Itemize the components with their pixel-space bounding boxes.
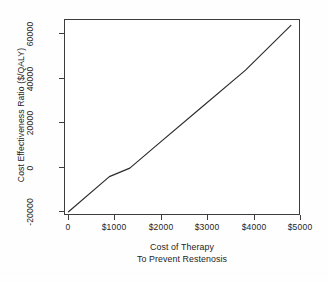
y-tick-label: 20000 (25, 101, 35, 145)
x-tick-mark (300, 215, 301, 220)
y-tick-mark (59, 33, 64, 34)
y-tick-mark (59, 78, 64, 79)
x-tick-label: 0 (45, 222, 91, 232)
x-tick-mark (254, 215, 255, 220)
x-tick-label: $2000 (138, 222, 184, 232)
x-axis-title-line2: To Prevent Restenosis (64, 254, 300, 266)
x-tick-mark (207, 215, 208, 220)
y-tick-label: 60000 (25, 12, 35, 56)
y-tick-label: 0 (25, 146, 35, 190)
x-tick-label: $1000 (91, 222, 137, 232)
x-tick-label: $5000 (277, 222, 323, 232)
x-tick-label: $3000 (184, 222, 230, 232)
y-tick-label: 40000 (25, 57, 35, 101)
series-line-cost-effectiveness-ratio (69, 25, 291, 211)
data-line-layer (64, 19, 300, 215)
x-axis-title-line1: Cost of Therapy (64, 242, 300, 254)
chart-figure: 60000 40000 20000 0 -20000 0 $1000 $2000… (0, 0, 328, 282)
y-tick-label: -20000 (25, 190, 35, 234)
scan-artifact-line (0, 273, 328, 274)
x-tick-mark (114, 215, 115, 220)
y-tick-mark (59, 122, 64, 123)
y-tick-mark (59, 167, 64, 168)
y-tick-mark (59, 211, 64, 212)
y-axis-title: Cost Effectiveness Ratio ($/QALY) (16, 15, 26, 215)
x-tick-label: $4000 (231, 222, 277, 232)
x-tick-mark (68, 215, 69, 220)
x-tick-mark (161, 215, 162, 220)
x-axis-title: Cost of Therapy To Prevent Restenosis (64, 242, 300, 265)
